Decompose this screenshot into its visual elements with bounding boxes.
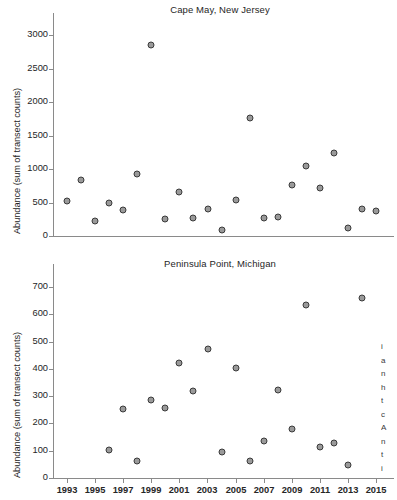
data-point-marker [274,213,281,220]
y-axis-tick [49,423,53,424]
data-point-marker [120,206,127,213]
y-axis-tick-label: 0 [0,230,48,240]
panel-peninsula-point: Peninsula Point, Michigan Abundance (sum… [0,250,397,500]
data-point-marker [288,425,295,432]
edge-text-line: n [381,435,397,449]
y-axis-tick-label: 100 [0,445,48,455]
data-point-marker [134,171,141,178]
edge-text-line: a [381,354,397,368]
y-axis-tick-label: 500 [0,336,48,346]
y-axis-tick [49,342,53,343]
data-point-marker [190,387,197,394]
y-axis-tick-label: 1000 [0,163,48,173]
data-point-marker [106,447,113,454]
edge-text-line: i [381,462,397,476]
y-axis-tick [49,478,53,479]
x-axis-tick [292,479,293,483]
x-axis-spine [53,478,394,479]
data-point-marker [288,181,295,188]
data-point-marker [274,386,281,393]
data-point-marker [330,439,337,446]
x-axis-spine [53,236,394,237]
y-axis-spine [53,264,54,478]
x-axis-tick [123,479,124,483]
edge-text-line: t [381,394,397,408]
data-point-marker [148,396,155,403]
y-axis-tick [49,169,53,170]
data-point-marker [162,404,169,411]
y-axis-tick-label: 500 [0,197,48,207]
data-point-marker [358,295,365,302]
y-axis-tick-label: 400 [0,363,48,373]
data-point-marker [246,114,253,121]
y-axis-tick-label: 600 [0,308,48,318]
page-edge-text-fragment: ianhtcAnti [381,340,397,475]
edge-text-line: c [381,408,397,422]
y-axis-tick-label: 0 [0,472,48,482]
data-point-marker [176,359,183,366]
data-point-marker [260,214,267,221]
data-point-marker [246,458,253,465]
data-point-marker [218,448,225,455]
data-point-marker [302,163,309,170]
y-axis-tick-label: 3000 [0,29,48,39]
panel-title-peninsula-point: Peninsula Point, Michigan [100,258,340,269]
x-axis-tick [95,479,96,483]
y-axis-tick [49,69,53,70]
y-axis-tick [49,396,53,397]
data-point-marker [64,197,71,204]
data-point-marker [148,42,155,49]
edge-text-line: n [381,367,397,381]
panel-cape-may: Cape May, New Jersey Abundance (sum of t… [0,0,397,250]
y-axis-tick [49,451,53,452]
edge-text-line: i [381,340,397,354]
data-point-marker [106,199,113,206]
x-axis-tick [348,479,349,483]
figure-two-panel-scatter: Cape May, New Jersey Abundance (sum of t… [0,0,397,500]
data-point-marker [260,438,267,445]
edge-text-line: h [381,381,397,395]
x-axis-tick [264,479,265,483]
data-point-marker [204,205,211,212]
data-point-marker [120,406,127,413]
edge-text-line: A [381,421,397,435]
y-axis-tick [49,102,53,103]
x-axis-tick [376,479,377,483]
y-axis-tick-label: 300 [0,390,48,400]
data-point-marker [316,443,323,450]
y-axis-tick-label: 200 [0,417,48,427]
y-axis-tick-label: 700 [0,281,48,291]
data-point-marker [232,364,239,371]
x-axis-tick [67,479,68,483]
x-axis-tick [179,479,180,483]
x-axis-tick-label: 2015 [360,485,392,495]
y-axis-tick [49,287,53,288]
y-axis-label-top: Abundance (sum of transect counts) [12,88,22,234]
data-point-marker [302,301,309,308]
data-point-marker [204,346,211,353]
panel-title-cape-may: Cape May, New Jersey [100,4,340,15]
y-axis-tick [49,369,53,370]
data-point-marker [330,149,337,156]
x-axis-tick [207,479,208,483]
data-point-marker [134,458,141,465]
y-axis-tick [49,203,53,204]
x-axis-tick-label: 2003 [191,485,223,495]
y-axis-tick [49,236,53,237]
y-axis-tick-label: 1500 [0,130,48,140]
data-point-marker [344,462,351,469]
data-point-marker [358,205,365,212]
x-axis-tick [151,479,152,483]
x-axis-tick [320,479,321,483]
data-point-marker [344,224,351,231]
data-point-marker [92,217,99,224]
data-point-marker [176,188,183,195]
y-axis-spine [53,13,54,236]
data-point-marker [218,227,225,234]
edge-text-line: t [381,448,397,462]
data-point-marker [162,216,169,223]
data-point-marker [316,185,323,192]
y-axis-tick [49,314,53,315]
data-point-marker [373,207,380,214]
y-axis-tick [49,136,53,137]
